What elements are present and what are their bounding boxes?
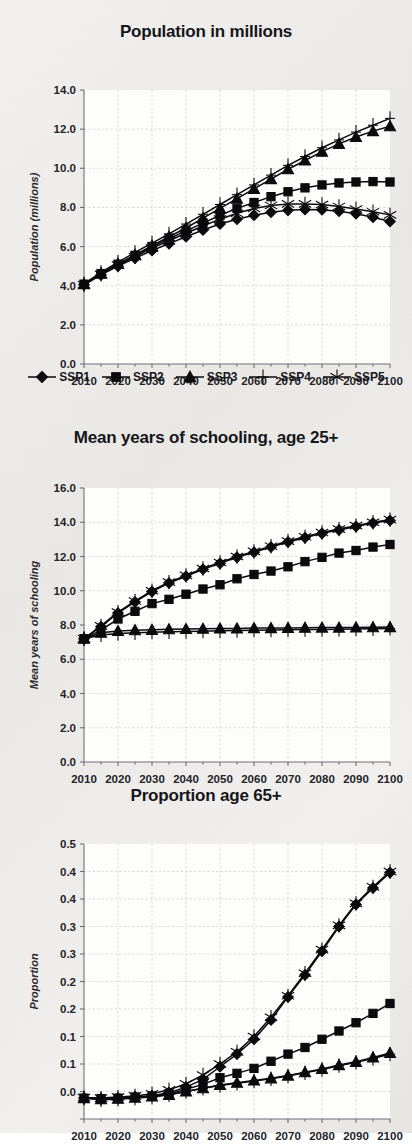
marker-square (284, 188, 292, 196)
y-tick-label: 0.3 (60, 948, 76, 960)
legend-item-ssp5[interactable]: SSP5 (322, 368, 385, 386)
marker-square (199, 585, 207, 593)
chart-title-schooling: Mean years of schooling, age 25+ (0, 412, 412, 448)
legend-marker-square-icon (101, 368, 131, 386)
y-tick-label: 16.0 (54, 482, 76, 494)
marker-square (267, 567, 275, 575)
y-tick-label: 12.0 (54, 123, 76, 135)
marker-square (318, 181, 326, 189)
y-tick-label: 14.0 (54, 84, 76, 96)
marker-square (352, 1019, 360, 1027)
y-axis-title: Mean years of schooling (28, 561, 40, 690)
legend-label: SSP5 (354, 370, 385, 384)
legend-marker-triangle-icon (175, 368, 205, 386)
legend-item-ssp2[interactable]: SSP2 (101, 368, 164, 386)
y-tick-label: 0.4 (60, 893, 77, 905)
marker-square (369, 177, 377, 185)
marker-square (165, 595, 173, 603)
y-tick-label: 0.2 (60, 1003, 76, 1015)
legend-item-ssp1[interactable]: SSP1 (27, 368, 90, 386)
y-tick-label: 0.2 (60, 976, 76, 988)
chart-panel-proportion65: Proportion age 65+ 0.50.40.40.30.30.20.2… (0, 772, 412, 1133)
plot-background (84, 90, 390, 364)
y-axis-title: Proportion (28, 953, 40, 1009)
marker-square (352, 546, 360, 554)
y-tick-label: 0.0 (60, 756, 76, 768)
y-tick-label: 6.0 (60, 241, 76, 253)
marker-square (182, 590, 190, 598)
chart-panel-population: Population in millions 14.012.010.08.06.… (0, 0, 412, 412)
marker-square (369, 543, 377, 551)
marker-square (112, 373, 121, 382)
legend-item-ssp3[interactable]: SSP3 (175, 368, 238, 386)
y-tick-label: 2.0 (60, 722, 76, 734)
chart-canvas-population: 14.012.010.08.06.04.02.00.02010202020302… (0, 42, 412, 390)
x-tick-label: 2080 (309, 1130, 335, 1142)
marker-square (250, 1064, 258, 1072)
chart-title-proportion65: Proportion age 65+ (0, 772, 412, 806)
x-tick-label: 2050 (207, 1130, 233, 1142)
marker-square (352, 178, 360, 186)
marker-square (301, 184, 309, 192)
y-tick-label: 0.4 (60, 866, 77, 878)
marker-square (335, 549, 343, 557)
marker-square (284, 1050, 292, 1058)
y-tick-label: 0.1 (60, 1031, 77, 1043)
y-tick-label: 0.5 (60, 838, 77, 850)
marker-square (233, 575, 241, 583)
x-tick-label: 2070 (275, 1130, 301, 1142)
x-tick-label: 2040 (173, 1130, 199, 1142)
marker-square (250, 570, 258, 578)
marker-square (369, 1009, 377, 1017)
marker-square (318, 1035, 326, 1043)
marker-square (267, 1057, 275, 1065)
marker-diamond (37, 371, 48, 382)
legend-marker-diamond-icon (27, 368, 57, 386)
marker-square (284, 563, 292, 571)
x-tick-label: 2030 (139, 1130, 165, 1142)
marker-square (301, 558, 309, 566)
marker-square (386, 540, 394, 548)
marker-square (386, 178, 394, 186)
chart-svg-proportion65: 0.50.40.40.30.30.20.20.10.10.02010202020… (0, 806, 412, 1144)
chart-legend: SSP1SSP2SSP3SSP4SSP5 (0, 368, 412, 386)
x-tick-label: 2090 (343, 1130, 369, 1142)
y-tick-label: 4.0 (60, 688, 76, 700)
chart-panel-schooling: Mean years of schooling, age 25+ 16.014.… (0, 412, 412, 772)
y-tick-label: 12.0 (54, 551, 76, 563)
legend-marker-plus-icon (248, 368, 278, 386)
x-tick-label: 2010 (71, 1130, 97, 1142)
y-tick-label: 0.0 (60, 1086, 76, 1098)
legend-label: SSP1 (59, 370, 90, 384)
y-tick-label: 2.0 (60, 319, 76, 331)
chart-canvas-schooling: 16.014.012.010.08.06.04.02.00.0201020202… (0, 448, 412, 792)
legend-label: SSP4 (280, 370, 311, 384)
marker-square (131, 607, 139, 615)
y-tick-label: 8.0 (60, 201, 76, 213)
marker-square (335, 179, 343, 187)
y-tick-label: 6.0 (60, 653, 76, 665)
marker-square (335, 1027, 343, 1035)
chart-canvas-proportion65: 0.50.40.40.30.30.20.20.10.10.02010202020… (0, 806, 412, 1144)
x-tick-label: 2100 (377, 1130, 403, 1142)
y-tick-label: 14.0 (54, 516, 76, 528)
y-tick-label: 10.0 (54, 585, 76, 597)
marker-square (386, 999, 394, 1007)
marker-square (301, 1043, 309, 1051)
y-tick-label: 8.0 (60, 619, 76, 631)
marker-square (318, 553, 326, 561)
y-tick-label: 10.0 (54, 162, 76, 174)
legend-label: SSP2 (133, 370, 164, 384)
x-tick-label: 2020 (105, 1130, 131, 1142)
x-tick-label: 2060 (241, 1130, 267, 1142)
marker-square (148, 599, 156, 607)
marker-square (216, 581, 224, 589)
chart-svg-population: 14.012.010.08.06.04.02.00.02010202020302… (0, 42, 412, 390)
legend-item-ssp4[interactable]: SSP4 (248, 368, 311, 386)
y-tick-label: 0.1 (60, 1058, 77, 1070)
legend-marker-asterisk-icon (322, 368, 352, 386)
y-tick-label: 0.3 (60, 921, 76, 933)
legend-label: SSP3 (207, 370, 238, 384)
y-axis-title: Population (millions) (28, 172, 40, 281)
